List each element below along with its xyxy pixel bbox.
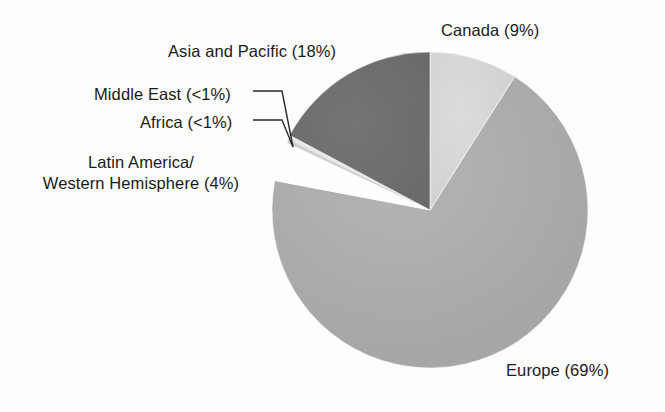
pie-label-middle-east: Middle East (<1%): [94, 84, 231, 105]
leader-line-middle-east: [253, 91, 293, 147]
pie-chart-figure: Canada (9%) Asia and Pacific (18%) Middl…: [0, 0, 665, 412]
pie-label-latin-america-line2: Western Hemisphere (4%): [16, 173, 266, 194]
pie-label-latin-america-line1: Latin America/: [16, 152, 266, 173]
pie-label-africa: Africa (<1%): [140, 112, 232, 133]
pie-label-asia-pacific: Asia and Pacific (18%): [168, 41, 336, 62]
pie-label-latin-america: Latin America/ Western Hemisphere (4%): [16, 152, 266, 194]
pie-label-canada: Canada (9%): [441, 20, 539, 41]
pie-label-europe: Europe (69%): [506, 360, 609, 381]
